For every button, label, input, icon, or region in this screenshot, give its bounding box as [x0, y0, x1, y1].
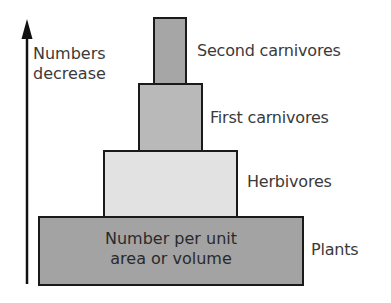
axis-label: Numbers decrease	[33, 44, 106, 84]
level-second-carnivores-box	[153, 17, 187, 86]
base-annotation-line2: area or volume	[40, 249, 302, 269]
level-herbivores-box	[103, 150, 238, 218]
base-annotation: Number per unit area or volume	[40, 229, 302, 269]
axis-label-line2: decrease	[33, 64, 106, 84]
level-first-carnivores-label: First carnivores	[210, 108, 329, 127]
level-herbivores-label: Herbivores	[247, 172, 332, 191]
level-plants-label: Plants	[311, 240, 358, 259]
level-plants-box: Number per unit area or volume	[38, 216, 304, 286]
level-second-carnivores-label: Second carnivores	[197, 41, 341, 60]
level-first-carnivores-box	[138, 83, 203, 153]
base-annotation-line1: Number per unit	[40, 229, 302, 249]
axis-label-line1: Numbers	[33, 44, 106, 64]
up-arrow-icon	[22, 19, 33, 284]
